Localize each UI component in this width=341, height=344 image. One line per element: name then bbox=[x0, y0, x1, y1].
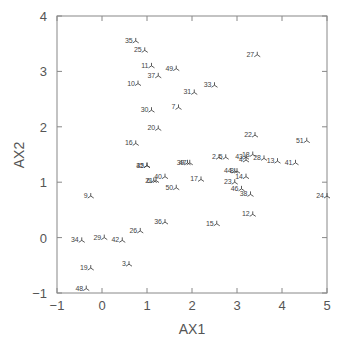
tri-marker-icon bbox=[162, 219, 168, 224]
tri-marker-icon bbox=[212, 82, 218, 87]
x-tick-label: 5 bbox=[323, 298, 330, 313]
point-label: 35 bbox=[125, 37, 133, 44]
y-tick-label: 2 bbox=[40, 120, 47, 135]
x-tick-label: 4 bbox=[278, 298, 285, 313]
data-point: 50 bbox=[165, 184, 179, 191]
data-point: 30 bbox=[141, 106, 155, 113]
tri-marker-icon bbox=[198, 176, 204, 181]
y-tick-label: 4 bbox=[40, 9, 47, 24]
data-point: 15 bbox=[206, 220, 220, 227]
point-label: 40 bbox=[154, 173, 162, 180]
data-point: 27 bbox=[246, 51, 260, 58]
data-point: 22 bbox=[244, 131, 258, 138]
tri-marker-icon bbox=[79, 237, 85, 242]
tri-marker-icon bbox=[243, 157, 249, 162]
x-tick-label: 1 bbox=[143, 298, 150, 313]
data-point: 11 bbox=[141, 62, 154, 69]
tri-marker-icon bbox=[254, 52, 260, 57]
point-label: 41 bbox=[285, 159, 293, 166]
point-label: 33 bbox=[204, 81, 212, 88]
point-label: 12 bbox=[242, 210, 250, 217]
point-label: 4 bbox=[239, 156, 243, 163]
point-label: 26 bbox=[129, 227, 137, 234]
tri-marker-icon bbox=[176, 104, 182, 109]
data-point: 14 bbox=[235, 173, 249, 180]
plot-frame bbox=[57, 16, 327, 293]
tri-marker-icon bbox=[232, 179, 238, 184]
y-tick-label: 0 bbox=[40, 231, 47, 246]
tri-marker-icon bbox=[144, 163, 150, 168]
x-tick-label: 2 bbox=[188, 298, 195, 313]
tri-marker-icon bbox=[243, 174, 249, 179]
point-label: 22 bbox=[244, 131, 252, 138]
data-point: 26 bbox=[129, 227, 143, 234]
tri-marker-icon bbox=[119, 237, 125, 242]
data-point: 19 bbox=[80, 264, 94, 271]
point-label: 24 bbox=[316, 192, 324, 199]
data-point: 38 bbox=[240, 190, 254, 197]
data-point: 42 bbox=[111, 236, 125, 243]
point-label: 36 bbox=[154, 218, 162, 225]
x-tick-label: 0 bbox=[98, 298, 105, 313]
point-label: 50 bbox=[165, 184, 173, 191]
point-label: 48 bbox=[75, 285, 83, 292]
data-point: 7 bbox=[172, 103, 182, 110]
tri-marker-icon bbox=[252, 132, 258, 137]
data-point: 20 bbox=[147, 124, 161, 131]
data-point: 29 bbox=[93, 234, 107, 241]
point-label: 20 bbox=[147, 124, 155, 131]
tri-marker-icon bbox=[88, 265, 94, 270]
tri-marker-icon bbox=[101, 235, 107, 240]
tri-marker-icon bbox=[137, 228, 143, 233]
data-point: 33 bbox=[204, 81, 218, 88]
y-axis-title: AX2 bbox=[11, 142, 27, 169]
data-point: 12 bbox=[242, 210, 256, 217]
data-point: 24 bbox=[316, 192, 330, 199]
data-point: 41 bbox=[285, 159, 299, 166]
tri-marker-icon bbox=[133, 140, 139, 145]
tri-marker-icon bbox=[248, 191, 254, 196]
point-label: 29 bbox=[93, 234, 101, 241]
tri-marker-icon bbox=[155, 73, 161, 78]
point-label: 18 bbox=[242, 151, 250, 158]
data-point: 34 bbox=[71, 236, 85, 243]
x-tick-label: −1 bbox=[50, 298, 65, 313]
tri-marker-icon bbox=[173, 185, 179, 190]
point-label: 9 bbox=[84, 192, 88, 199]
y-tick-label: 1 bbox=[40, 175, 47, 190]
data-point: 9 bbox=[84, 192, 94, 199]
point-label: 51 bbox=[296, 137, 304, 144]
tri-marker-icon bbox=[293, 160, 299, 165]
data-point: 49 bbox=[165, 65, 179, 72]
y-tick-label: −1 bbox=[32, 286, 47, 301]
tri-marker-icon bbox=[191, 89, 197, 94]
point-label: 21 bbox=[145, 177, 153, 184]
point-label: 28 bbox=[253, 154, 261, 161]
tri-marker-icon bbox=[275, 158, 281, 163]
point-label: 34 bbox=[71, 236, 79, 243]
tri-marker-icon bbox=[126, 261, 132, 266]
point-label: 46 bbox=[231, 185, 239, 192]
point-label: 38 bbox=[240, 190, 248, 197]
data-point: 28 bbox=[253, 154, 267, 161]
point-label: 10 bbox=[127, 80, 135, 87]
x-axis-title: AX1 bbox=[179, 321, 206, 337]
data-point: 51 bbox=[296, 137, 310, 144]
point-label: 25 bbox=[134, 46, 142, 53]
point-label: 16 bbox=[125, 139, 133, 146]
y-tick-label: 3 bbox=[40, 64, 47, 79]
point-label: 14 bbox=[235, 173, 243, 180]
point-label: 13 bbox=[267, 157, 275, 164]
point-label: 5 bbox=[219, 153, 223, 160]
point-label: 19 bbox=[80, 264, 88, 271]
data-point: 31 bbox=[183, 88, 197, 95]
data-point: 48 bbox=[75, 285, 89, 292]
point-label: 2 bbox=[212, 153, 216, 160]
data-point: 10 bbox=[127, 80, 141, 87]
point-label: 49 bbox=[165, 65, 173, 72]
tri-marker-icon bbox=[250, 211, 256, 216]
point-label: 47 bbox=[179, 159, 187, 166]
data-point: 13 bbox=[267, 157, 281, 164]
tri-marker-icon bbox=[173, 66, 179, 71]
tri-marker-icon bbox=[155, 125, 161, 130]
